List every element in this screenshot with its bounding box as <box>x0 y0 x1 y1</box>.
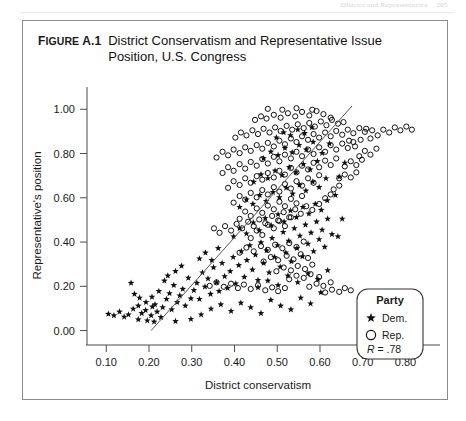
data-point-dem <box>105 310 112 316</box>
data-point-dem <box>148 312 155 318</box>
data-point-rep <box>243 176 248 181</box>
data-point-dem <box>151 318 158 324</box>
data-point-rep <box>307 113 312 118</box>
data-point-dem <box>227 268 234 274</box>
data-point-rep <box>294 273 299 278</box>
data-point-rep <box>281 265 286 270</box>
data-point-rep <box>294 201 299 206</box>
data-point-dem <box>182 302 189 308</box>
data-point-rep <box>271 226 276 231</box>
data-point-rep <box>228 228 233 233</box>
data-point-rep <box>351 131 356 136</box>
data-point-rep <box>337 183 342 188</box>
data-point-rep <box>225 165 230 170</box>
data-point-dem <box>130 305 137 311</box>
data-point-dem <box>323 175 330 181</box>
data-point-rep <box>321 112 326 117</box>
legend-title: Party <box>376 294 404 306</box>
data-point-rep <box>277 159 282 164</box>
data-point-dem <box>163 296 170 302</box>
data-point-rep <box>237 150 242 155</box>
data-point-rep <box>282 152 287 157</box>
data-point-rep <box>270 213 275 218</box>
data-point-dem <box>217 301 224 307</box>
data-point-rep <box>277 138 282 143</box>
figure-page: District and Representative 205 FIGURE A… <box>0 0 466 421</box>
data-point-rep <box>357 125 362 130</box>
data-point-rep <box>250 128 255 133</box>
data-point-dem <box>241 274 248 280</box>
data-point-rep <box>345 145 350 150</box>
data-point-dem <box>185 274 192 280</box>
data-point-rep <box>348 175 353 180</box>
data-point-dem <box>196 255 203 261</box>
x-axis-tick-label: 0.30 <box>181 356 202 368</box>
data-point-rep <box>294 139 299 144</box>
data-point-rep <box>298 211 303 216</box>
data-point-dem <box>310 248 317 254</box>
data-point-dem <box>154 308 161 314</box>
data-point-rep <box>323 158 328 163</box>
y-axis-tick-label: 1.00 <box>54 103 75 115</box>
data-point-rep <box>281 210 286 215</box>
data-point-rep <box>265 192 270 197</box>
data-point-dem <box>161 277 168 283</box>
data-point-dem <box>238 299 245 305</box>
data-point-rep <box>231 200 236 205</box>
data-point-rep <box>277 168 282 173</box>
data-point-dem <box>280 129 287 135</box>
data-point-dem <box>128 280 135 286</box>
data-point-rep <box>267 130 272 135</box>
data-point-rep <box>268 255 273 260</box>
data-point-dem <box>178 262 185 268</box>
data-point-dem <box>288 306 295 312</box>
data-point-rep <box>225 153 230 158</box>
data-point-rep <box>294 106 299 111</box>
data-point-rep <box>264 116 269 121</box>
data-point-rep <box>362 148 367 153</box>
data-point-rep <box>345 127 350 132</box>
x-axis-tick-label: 0.60 <box>309 356 330 368</box>
data-point-dem <box>142 307 149 313</box>
data-point-dem <box>188 316 195 322</box>
data-point-rep <box>214 155 219 160</box>
data-point-rep <box>299 134 304 139</box>
data-point-rep <box>301 275 306 280</box>
data-point-rep <box>231 179 236 184</box>
running-head-text: District and Representative <box>341 1 428 9</box>
data-point-rep <box>368 152 373 157</box>
data-point-rep <box>258 114 263 119</box>
data-point-rep <box>271 207 276 212</box>
data-point-dem <box>297 294 304 300</box>
data-point-dem <box>236 204 243 210</box>
data-point-rep <box>237 193 242 198</box>
data-point-rep <box>255 131 260 136</box>
data-point-rep <box>243 209 248 214</box>
data-point-dem <box>277 302 284 308</box>
data-point-rep <box>275 258 280 263</box>
data-point-rep <box>265 161 270 166</box>
data-point-dem <box>138 310 145 316</box>
data-point-rep <box>280 246 285 251</box>
data-point-rep <box>310 262 315 267</box>
running-head: District and Representative 205 <box>341 1 448 9</box>
data-point-dem <box>306 210 313 216</box>
data-point-rep <box>293 114 298 119</box>
data-point-dem <box>265 277 272 283</box>
data-point-dem <box>208 305 215 311</box>
data-point-rep <box>354 170 359 175</box>
data-point-rep <box>364 126 369 131</box>
data-point-dem <box>307 300 314 306</box>
data-point-rep <box>243 145 248 150</box>
regression-line-layer <box>151 106 352 331</box>
data-point-rep <box>398 128 403 133</box>
data-point-rep <box>340 141 345 146</box>
data-point-dem <box>228 308 235 314</box>
data-point-rep <box>368 136 373 141</box>
data-point-rep <box>370 128 375 133</box>
data-point-rep <box>237 182 242 187</box>
data-point-dem <box>159 304 166 310</box>
data-point-rep <box>328 192 333 197</box>
data-point-rep <box>348 159 353 164</box>
data-point-rep <box>271 144 276 149</box>
